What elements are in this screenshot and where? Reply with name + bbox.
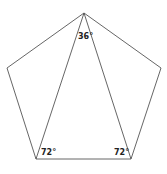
angle-label-bottom-left: 72° bbox=[41, 148, 56, 157]
angle-label-bottom-right: 72° bbox=[114, 148, 129, 157]
angle-label-top: 36° bbox=[78, 32, 93, 41]
diagonal-left bbox=[36, 13, 84, 159]
pentagon-diagram: 36° 72° 72° bbox=[0, 0, 167, 174]
